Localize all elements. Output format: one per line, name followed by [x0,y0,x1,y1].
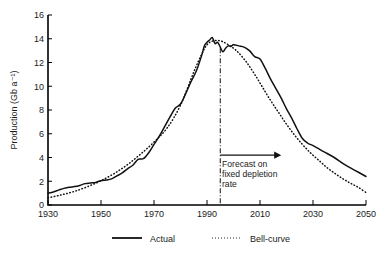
y-tick-group: 12 [34,58,52,68]
forecast-annotation: Forecast on fixed depletion rate [222,159,278,189]
y-tick-label: 6 [39,129,44,139]
y-tick-group: 16 [34,10,52,20]
x-tick-label: 1950 [91,209,111,219]
legend-item-actual[interactable]: Actual [112,234,175,244]
x-tick-label: 1930 [38,209,58,219]
series-bell-curve [48,40,366,197]
y-tick-group: 6 [39,129,52,139]
x-tick-label: 2050 [356,209,376,219]
x-tick-label: 2030 [303,209,323,219]
y-tick-group: 8 [39,105,52,115]
y-tick-label: 10 [34,82,44,92]
x-tick-group: 1950 [91,200,111,219]
x-tick-group: 2030 [303,200,323,219]
y-tick-label: 4 [39,153,44,163]
x-axis: 1930 1950 1970 1990 2010 2030 [38,200,376,219]
y-tick-label: 8 [39,105,44,115]
annotation-line-2: fixed depletion [222,169,278,179]
x-tick-label: 1990 [197,209,217,219]
y-axis: 0 2 4 6 8 10 1 [34,10,52,210]
x-tick-group: 1990 [197,200,217,219]
annotation-line-3: rate [222,179,237,189]
y-tick-group: 10 [34,82,52,92]
x-tick-group: 2010 [250,200,270,219]
y-tick-group: 14 [34,34,52,44]
y-tick-label: 16 [34,10,44,20]
x-tick-group: 2050 [356,200,376,219]
y-tick-group: 4 [39,153,52,163]
chart-legend: Actual Bell-curve [112,234,290,244]
chart-figure: 0 2 4 6 8 10 1 [0,0,385,253]
y-tick-label: 2 [39,177,44,187]
x-tick-group: 1970 [144,200,164,219]
plot-axes-frame [48,15,366,205]
series-actual [48,37,366,193]
legend-label-actual: Actual [150,234,175,244]
y-axis-title: Production (Gb a⁻¹) [9,70,19,149]
y-tick-group: 2 [39,177,52,187]
y-tick-label: 12 [34,58,44,68]
legend-label-bell-curve: Bell-curve [250,234,290,244]
y-tick-label: 14 [34,34,44,44]
x-tick-label: 2010 [250,209,270,219]
annotation-line-1: Forecast on [222,159,268,169]
production-line-chart: 0 2 4 6 8 10 1 [0,0,385,253]
forecast-arrow-head [274,152,281,159]
legend-item-bell-curve[interactable]: Bell-curve [212,234,290,244]
x-tick-label: 1970 [144,209,164,219]
